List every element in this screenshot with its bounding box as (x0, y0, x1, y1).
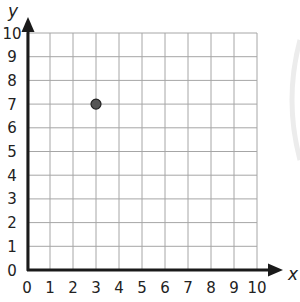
x-tick-label: 7 (183, 279, 193, 297)
y-tick-label: 10 (2, 25, 21, 43)
axes: x y (7, 1, 299, 284)
y-tick-label: 1 (7, 238, 17, 256)
y-axis-label: y (7, 1, 19, 21)
background-arc (292, 40, 300, 160)
x-axis-arrow-icon (268, 264, 283, 277)
x-tick-label: 10 (247, 279, 266, 297)
x-tick-label: 0 (22, 279, 32, 297)
y-tick-label: 4 (7, 167, 17, 185)
x-tick-label: 5 (137, 279, 147, 297)
x-tick-label: 8 (206, 279, 216, 297)
y-tick-label: 3 (7, 190, 17, 208)
x-tick-label: 6 (160, 279, 170, 297)
y-tick-labels: 012345678910 (2, 25, 21, 280)
data-point (91, 99, 101, 109)
x-tick-label: 3 (91, 279, 101, 297)
x-tick-label: 2 (68, 279, 78, 297)
y-tick-label: 6 (7, 119, 17, 137)
grid-lines (27, 33, 257, 270)
y-tick-label: 0 (7, 262, 17, 280)
y-tick-label: 9 (7, 48, 17, 66)
y-axis-arrow-icon (22, 17, 35, 32)
x-tick-label: 4 (114, 279, 124, 297)
x-tick-labels: 012345678910 (22, 279, 266, 297)
y-tick-label: 7 (7, 96, 17, 114)
y-tick-label: 8 (7, 72, 17, 90)
y-tick-label: 2 (7, 214, 17, 232)
x-tick-label: 1 (45, 279, 55, 297)
coordinate-grid: x y 012345678910 012345678910 (0, 0, 300, 302)
data-points (91, 99, 101, 109)
x-axis-label: x (287, 264, 299, 284)
x-tick-label: 9 (229, 279, 239, 297)
y-tick-label: 5 (7, 143, 17, 161)
